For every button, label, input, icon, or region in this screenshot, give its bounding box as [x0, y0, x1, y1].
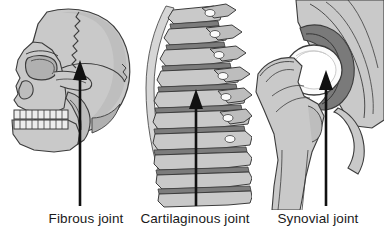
- vertebral-column-illustration: [140, 0, 252, 210]
- vertebra-unit: [153, 109, 252, 134]
- panel-cartilaginous-joint: [140, 0, 252, 210]
- vertebral-foramen: [218, 73, 228, 80]
- caption-synovial-joint: Synovial joint: [252, 209, 384, 229]
- hip-joint-illustration: [252, 0, 384, 210]
- vertebra-unit: [157, 67, 250, 92]
- lateral-skull-illustration: [0, 0, 140, 210]
- vertebral-foramen: [205, 10, 215, 17]
- vertebral-foramen: [225, 136, 235, 143]
- maxillary-tooth-row: [14, 110, 68, 119]
- vertebral-body: [158, 191, 252, 207]
- mandibular-tooth-row: [14, 120, 68, 129]
- vertebral-foramen: [214, 52, 224, 59]
- vertebra-unit: [153, 131, 252, 155]
- vertebra-unit: [154, 88, 252, 113]
- vertebral-foramen: [223, 115, 233, 122]
- panel-fibrous-joint: [0, 0, 140, 210]
- lumbar-block: [154, 152, 252, 207]
- panel-synovial-joint: [252, 0, 384, 210]
- joint-types-figure: Fibrous joint Cartilaginous joint Synovi…: [0, 0, 384, 243]
- vertebral-foramen: [210, 31, 220, 38]
- vertebra-unit: [160, 46, 246, 71]
- nasal-aperture-shape: [19, 81, 33, 99]
- vertebrae-stack: [153, 4, 252, 207]
- captions-row: Fibrous joint Cartilaginous joint Synovi…: [0, 209, 384, 243]
- vertebral-foramen: [221, 94, 231, 101]
- caption-cartilaginous-joint: Cartilaginous joint: [130, 209, 260, 229]
